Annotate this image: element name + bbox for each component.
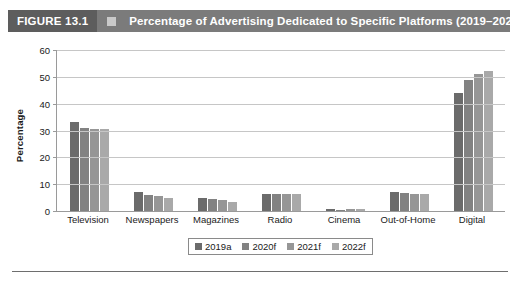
y-axis-tick-label: 60 bbox=[10, 45, 57, 56]
bar bbox=[336, 210, 345, 211]
gridline bbox=[57, 50, 505, 51]
x-axis-category-label: Magazines bbox=[184, 214, 248, 225]
x-axis-category-labels: TelevisionNewspapersMagazinesRadioCinema… bbox=[56, 214, 504, 225]
y-axis-tick-label: 20 bbox=[10, 152, 57, 163]
y-axis-tick-label: 30 bbox=[10, 125, 57, 136]
figure-title-bar: FIGURE 13.1 Percentage of Advertising De… bbox=[8, 10, 510, 32]
bar bbox=[420, 194, 429, 211]
legend-label: 2019a bbox=[205, 241, 231, 252]
legend-label: 2020f bbox=[252, 241, 276, 252]
x-axis-category-label: Cinema bbox=[312, 214, 376, 225]
legend-swatch-icon bbox=[242, 243, 249, 250]
gridline bbox=[57, 77, 505, 78]
y-axis-tick-label: 10 bbox=[10, 179, 57, 190]
bar bbox=[70, 122, 79, 211]
gridline bbox=[57, 184, 505, 185]
bar bbox=[400, 193, 409, 211]
bar bbox=[228, 202, 237, 211]
bar bbox=[90, 129, 99, 211]
figure-number-label: FIGURE 13.1 bbox=[8, 10, 97, 32]
legend-item[interactable]: 2022f bbox=[332, 241, 366, 252]
bar bbox=[134, 192, 143, 211]
x-axis-category-label: Radio bbox=[248, 214, 312, 225]
bar bbox=[144, 195, 153, 211]
legend-label: 2021f bbox=[297, 241, 321, 252]
chart-plot-wrapper: Percentage 0102030405060 TelevisionNewsp… bbox=[0, 34, 518, 234]
gridline bbox=[57, 131, 505, 132]
bar bbox=[80, 128, 89, 211]
bar bbox=[164, 198, 173, 211]
bar bbox=[390, 192, 399, 211]
legend-item[interactable]: 2021f bbox=[287, 241, 321, 252]
bar bbox=[262, 194, 271, 211]
bar bbox=[464, 80, 473, 211]
bar bbox=[100, 129, 109, 211]
bar bbox=[282, 194, 291, 211]
x-axis-category-label: Newspapers bbox=[120, 214, 184, 225]
bar bbox=[484, 71, 493, 211]
gridline bbox=[57, 104, 505, 105]
chart-legend: 2019a2020f2021f2022f bbox=[188, 238, 373, 255]
y-axis-tick-label: 50 bbox=[10, 71, 57, 82]
bar bbox=[326, 209, 335, 211]
plot-area: 0102030405060 bbox=[56, 50, 505, 212]
legend-swatch-icon bbox=[195, 243, 202, 250]
legend-swatch-icon bbox=[332, 243, 339, 250]
bar bbox=[454, 93, 463, 211]
legend-item[interactable]: 2020f bbox=[242, 241, 276, 252]
bar bbox=[474, 74, 483, 211]
figure-title-text: Percentage of Advertising Dedicated to S… bbox=[129, 15, 518, 27]
bar bbox=[218, 200, 227, 211]
bar bbox=[356, 209, 365, 211]
y-axis-tick-label: 40 bbox=[10, 98, 57, 109]
bar bbox=[410, 194, 419, 211]
y-axis-tick-label: 0 bbox=[10, 206, 57, 217]
bottom-divider bbox=[12, 271, 508, 272]
bar bbox=[346, 209, 355, 211]
legend-item[interactable]: 2019a bbox=[195, 241, 231, 252]
bar bbox=[198, 198, 207, 211]
gridline bbox=[57, 157, 505, 158]
x-axis-category-label: Television bbox=[56, 214, 120, 225]
bar bbox=[208, 199, 217, 211]
square-marker-icon bbox=[107, 17, 116, 26]
legend-label: 2022f bbox=[342, 241, 366, 252]
bar bbox=[154, 196, 163, 211]
legend-swatch-icon bbox=[287, 243, 294, 250]
bar bbox=[292, 194, 301, 211]
figure-container: FIGURE 13.1 Percentage of Advertising De… bbox=[0, 0, 518, 282]
x-axis-category-label: Out-of-Home bbox=[376, 214, 440, 225]
x-axis-category-label: Digital bbox=[440, 214, 504, 225]
bar bbox=[272, 194, 281, 211]
